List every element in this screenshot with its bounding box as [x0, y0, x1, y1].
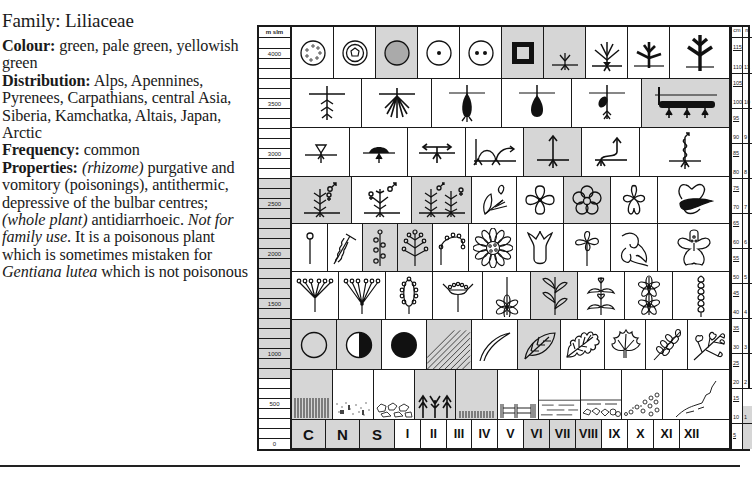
solitary-flower-icon — [302, 230, 318, 266]
symbol-small-tree — [628, 27, 670, 79]
altitude-tick — [259, 109, 290, 119]
symbol-lobed-leaf — [561, 320, 605, 370]
symbol-circle-one-dot — [418, 27, 460, 79]
small-tree-icon — [632, 32, 666, 74]
symbol-shrub — [586, 27, 628, 79]
symbol-imbricate-spike — [673, 272, 730, 320]
height-band: 115110 — [732, 38, 743, 74]
corm-root-icon — [585, 83, 629, 123]
m-label: 2 — [744, 379, 747, 385]
cm-label: 70 — [733, 204, 739, 210]
altitude-tick — [259, 89, 290, 99]
cm-label: 60 — [733, 239, 739, 245]
daisy-icon — [473, 228, 513, 268]
altitude-tick — [259, 189, 290, 199]
cm-label: 10 — [733, 414, 739, 420]
altitude-tick — [259, 389, 290, 399]
leafy-shoot-icon — [477, 182, 511, 218]
water-lines-icon — [539, 399, 580, 419]
symbol-stolons — [408, 128, 466, 177]
altitude-tick — [259, 209, 290, 219]
altitude-tick — [259, 239, 290, 249]
hourglass-rosette-icon — [301, 137, 341, 167]
cm-label: 5 — [733, 432, 736, 438]
m-band: 3 — [743, 319, 752, 354]
imbricate-spike-icon — [693, 274, 709, 318]
botanical-symbol-chart: m slm 4000 3500 3000 2500 2000 1500 1000 — [257, 25, 750, 451]
altitude-2000: 2000 — [259, 249, 290, 259]
altitude-tick — [259, 429, 290, 439]
cm-label: 80 — [733, 169, 739, 175]
month-i: I — [395, 420, 421, 449]
symbol-stalked-flower — [564, 224, 611, 272]
altitude-tick — [259, 309, 290, 319]
compound-umbel-icon — [295, 276, 335, 316]
symbol-fibrous-root — [362, 79, 432, 128]
cm-label: 110 — [733, 64, 742, 70]
cm-label: 25 — [733, 360, 739, 366]
lobed-leaf-icon — [563, 329, 603, 361]
altitude-tick — [259, 379, 290, 389]
symbol-scattered-dots — [292, 27, 334, 79]
stippled-circle-icon — [383, 39, 411, 67]
month-xii: XII — [680, 420, 730, 449]
stolon-icon — [415, 137, 459, 167]
cm-label: 50 — [733, 274, 739, 280]
month-vii: VII — [550, 420, 576, 449]
fence-icon — [499, 404, 537, 418]
altitude-tick — [259, 259, 290, 269]
monoecious-icon — [360, 179, 404, 221]
raceme-icon — [370, 228, 390, 268]
symbol-panicle — [398, 224, 433, 272]
symbol-taproot-branched — [292, 79, 362, 128]
symbol-fence-meadow — [498, 370, 539, 420]
height-band: 8580 — [732, 144, 743, 179]
symbol-orchid-flower — [611, 224, 658, 272]
cm-label: 55 — [733, 255, 739, 261]
m-band: 7 — [743, 179, 752, 214]
half-circle-icon — [344, 330, 374, 360]
cm-label: 20 — [733, 379, 739, 385]
m-band: 5 — [743, 249, 752, 284]
altitude-3500: 3500 — [259, 99, 290, 109]
altitude-tick — [259, 319, 290, 329]
symbol-irregular-flower — [611, 177, 658, 224]
symbol-capitulum — [433, 272, 483, 320]
altitude-2500: 2500 — [259, 199, 290, 209]
properties-gentiana: Gentiana lutea — [2, 263, 97, 281]
five-petal-icon — [570, 183, 604, 217]
frequency-entry: Frequency: common — [2, 142, 252, 159]
fibrous-root-icon — [375, 84, 419, 122]
cm-label: 15 — [733, 395, 739, 401]
properties-whole-plant: (whole plant) — [2, 211, 87, 229]
symbol-full-shade — [382, 320, 427, 370]
spadix-icon — [330, 228, 360, 268]
branched-root-icon — [305, 84, 349, 122]
symbol-bulb — [502, 79, 572, 128]
cm-label: 90 — [733, 134, 739, 140]
panicle-icon — [400, 228, 430, 268]
linear-leaf-icon — [478, 329, 512, 361]
symbol-pinnate-leaf — [646, 320, 688, 370]
stones-icon — [375, 400, 413, 418]
m-band: 9 — [743, 109, 752, 144]
symbol-coniferous-forest — [415, 370, 456, 420]
cm-label: 35 — [733, 325, 739, 331]
cm-label: 100 — [733, 99, 742, 105]
m-label: 8 — [744, 169, 747, 175]
m-band: 4 — [743, 284, 752, 319]
m-label: 3 — [744, 344, 747, 350]
altitude-tick — [259, 38, 290, 49]
bipinnate-leaf-icon — [690, 328, 728, 362]
m-band-highlighted: 1 — [743, 389, 752, 424]
cm-label: 105 — [733, 80, 742, 86]
properties-text-4: which is not poisonous — [97, 263, 248, 281]
altitude-scale: m slm 4000 3500 3000 2500 2000 1500 1000 — [259, 27, 292, 449]
m-band: 8 — [743, 144, 752, 179]
height-band: 3530 — [732, 319, 743, 354]
altitude-tick — [259, 169, 290, 179]
altitude-1000: 1000 — [259, 349, 290, 359]
symbol-sage-flower — [658, 224, 730, 272]
m-label: 9 — [744, 134, 747, 140]
symbol-corm — [572, 79, 642, 128]
